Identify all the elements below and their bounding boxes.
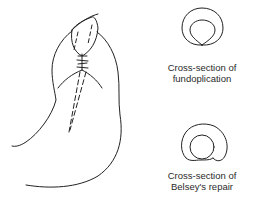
esophagus-oval — [71, 17, 98, 56]
fundoplication-caption: Cross-section of fundoplication — [147, 62, 257, 84]
caption-line: fundoplication — [147, 73, 257, 84]
belsey-cross-section — [182, 124, 228, 161]
stomach-lesser-curve — [12, 31, 72, 146]
caption-line: Cross-section of — [147, 170, 257, 181]
stomach-greater-curve — [26, 32, 121, 187]
belsey-caption: Cross-section of Belsey's repair — [147, 170, 257, 192]
fundoplication-cross-section — [182, 8, 223, 45]
caption-line: Belsey's repair — [147, 181, 257, 192]
esophagus-line — [72, 14, 98, 30]
surgical-diagram: Cross-section of fundoplication Cross-se… — [0, 0, 258, 203]
caption-line: Cross-section of — [147, 62, 257, 73]
